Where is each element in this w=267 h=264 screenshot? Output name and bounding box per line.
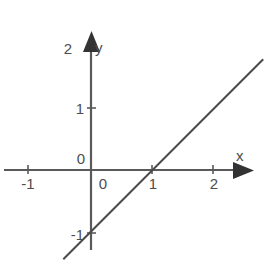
graph-canvas: y x 2 1 0 -1 -1 0 1 2 xyxy=(0,0,267,264)
y-axis-label: y xyxy=(95,39,103,56)
x-tick-label-2: 2 xyxy=(210,175,218,192)
coordinate-plane-figure: y x 2 1 0 -1 -1 0 1 2 xyxy=(0,0,267,264)
x-tick-label-0: 0 xyxy=(99,175,107,192)
x-tick-label-minus1: -1 xyxy=(21,175,34,192)
x-axis-label: x xyxy=(236,147,244,164)
y-tick-label-0: 0 xyxy=(77,150,85,167)
arrow-right-icon xyxy=(233,162,254,179)
y-tick-label-1: 1 xyxy=(76,100,84,117)
plot-line-series-0 xyxy=(63,59,263,259)
y-tick-label-2: 2 xyxy=(64,40,72,57)
x-tick-label-1: 1 xyxy=(149,175,157,192)
y-tick-label-minus1: -1 xyxy=(71,226,84,243)
